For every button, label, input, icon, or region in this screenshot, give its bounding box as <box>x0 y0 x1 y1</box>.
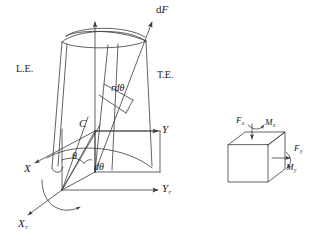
theta-angle-label: θ <box>72 151 77 161</box>
df-vector-line <box>95 22 152 172</box>
diagram-canvas <box>0 0 309 242</box>
blade-top-cap <box>62 28 146 48</box>
dtheta-arc <box>84 160 92 163</box>
yr-axis-label: Yr <box>162 183 171 196</box>
element-cube-wireframe <box>228 132 285 182</box>
blade-chord-lines <box>95 44 118 172</box>
xr-axis-subscript: r <box>25 223 28 230</box>
moment-z-subscript: z <box>273 122 276 128</box>
moment-y-subscript: y <box>294 167 297 173</box>
x-axis-label: X <box>24 163 31 174</box>
force-y-label: Fy <box>294 144 302 154</box>
r-dtheta-label: rdθ <box>111 83 124 93</box>
force-z-label: Fz <box>236 116 244 126</box>
center-point-label: C <box>79 118 86 129</box>
moment-z-arrow <box>248 125 264 129</box>
xr-axis-label: Xr <box>18 218 28 231</box>
force-y-subscript: y <box>300 148 303 154</box>
trailing-edge-label: T.E. <box>157 70 173 80</box>
force-z-subscript: z <box>242 120 245 126</box>
yr-axis-subscript: r <box>168 188 171 195</box>
leading-edge-label: L.E. <box>16 64 33 74</box>
xr-axis-line <box>28 190 62 215</box>
blade-element-diagram: dF L.E. T.E. rdθ C Y θ dθ X Yr Xr Fz Mz … <box>0 0 309 242</box>
df-force-symbol: F <box>162 3 169 15</box>
df-force-label: dF <box>156 4 168 15</box>
moment-y-label: My <box>286 163 296 173</box>
rotation-arc-arrow <box>42 180 80 210</box>
r-dtheta-symbol: dθ <box>115 82 125 93</box>
blade-trailing-edge-surface <box>146 41 152 166</box>
y-axis-label: Y <box>162 124 168 135</box>
moment-z-label: Mz <box>265 118 275 128</box>
dtheta-angle-label: dθ <box>94 162 104 172</box>
